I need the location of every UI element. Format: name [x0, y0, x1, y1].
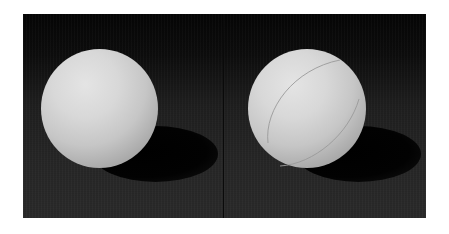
- left-panel: [23, 14, 223, 218]
- right-panel: [224, 14, 426, 218]
- photo-frame: [23, 14, 426, 218]
- sphere-seam-line: [224, 14, 426, 218]
- left-sphere: [41, 49, 158, 168]
